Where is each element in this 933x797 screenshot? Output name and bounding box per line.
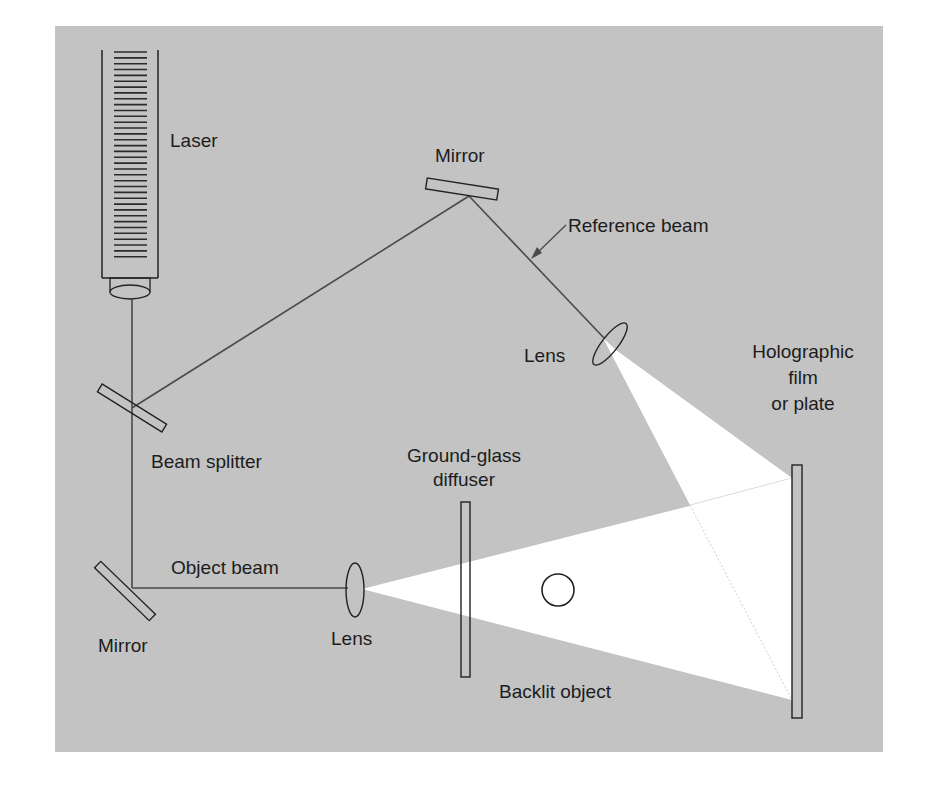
label-holographic-2: film [788,367,818,388]
holographic-plate-icon [792,465,802,718]
label-holographic-3: or plate [771,393,834,414]
label-beam-splitter: Beam splitter [151,451,263,472]
label-laser: Laser [170,130,218,151]
label-object-beam: Object beam [171,557,279,578]
label-mirror-top: Mirror [435,145,485,166]
label-ground-glass-2: diffuser [433,469,496,490]
label-lens-bottom: Lens [331,628,372,649]
label-backlit-object: Backlit object [499,681,612,702]
holography-diagram: Laser Mirror Reference beam Lens Hologra… [0,0,933,797]
label-reference-beam: Reference beam [568,215,708,236]
label-lens-top: Lens [524,345,565,366]
label-holographic-1: Holographic [752,341,853,362]
diagram-canvas: Laser Mirror Reference beam Lens Hologra… [0,0,933,797]
label-ground-glass-1: Ground-glass [407,445,521,466]
label-mirror-bottom: Mirror [98,635,148,656]
